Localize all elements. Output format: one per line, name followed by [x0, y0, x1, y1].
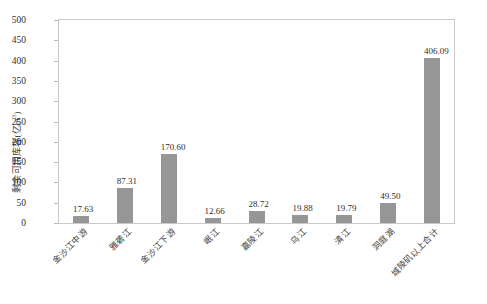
bar-value-label: 170.60	[161, 142, 186, 152]
bar[interactable]: 19.88	[292, 215, 308, 223]
bar[interactable]: 28.72	[249, 211, 265, 223]
bar-slot: 19.79	[322, 20, 366, 223]
y-axis-tick-label: 0	[0, 218, 26, 228]
bar-slot: 28.72	[235, 20, 279, 223]
y-axis-tick-label: 500	[0, 15, 26, 25]
bar[interactable]: 19.79	[336, 215, 352, 223]
bar-slot: 406.09	[410, 20, 454, 223]
y-axis-tick-label: 450	[0, 35, 26, 45]
bar-value-label: 12.66	[205, 206, 225, 216]
bar-slot: 87.31	[103, 20, 147, 223]
y-axis-title: 剩余可用库容(亿m3)	[10, 67, 23, 237]
y-axis-tick-label: 350	[0, 76, 26, 86]
bar[interactable]: 170.60	[161, 154, 177, 223]
bar-chart: 剩余可用库容(亿m3) 5004504003503002502001501005…	[0, 0, 487, 304]
bar[interactable]: 17.63	[73, 216, 89, 223]
bar-value-label: 87.31	[117, 176, 137, 186]
y-axis-tick-label: 200	[0, 137, 26, 147]
bar-value-label: 19.79	[336, 203, 356, 213]
bar[interactable]: 49.50	[380, 203, 396, 223]
bar[interactable]: 406.09	[424, 58, 440, 223]
bar-slot: 12.66	[191, 20, 235, 223]
bar-value-label: 17.63	[73, 204, 93, 214]
bar-value-label: 49.50	[380, 191, 400, 201]
y-axis-tick-label: 50	[0, 198, 26, 208]
y-axis-title-paren: )	[12, 111, 22, 114]
bar-value-label: 406.09	[424, 46, 449, 56]
bar[interactable]: 87.31	[117, 188, 133, 223]
bar-slot: 17.63	[59, 20, 103, 223]
bar-value-label: 19.88	[292, 203, 312, 213]
bar-slot: 170.60	[147, 20, 191, 223]
y-axis-tick-label: 300	[0, 96, 26, 106]
bar-value-label: 28.72	[249, 199, 269, 209]
bar-slot: 19.88	[278, 20, 322, 223]
bar-slot: 49.50	[366, 20, 410, 223]
y-axis-tick-label: 400	[0, 56, 26, 66]
y-axis-tick-label: 100	[0, 177, 26, 187]
y-axis-tick-label: 150	[0, 157, 26, 167]
x-axis-labels: 金沙江中游雅砻江金沙江下游岷江嘉陵江乌江清江洞庭湖城陵矶以上合计	[59, 225, 454, 303]
bar-series: 17.6387.31170.6012.6628.7219.8819.7949.5…	[59, 20, 454, 223]
bar[interactable]: 12.66	[205, 218, 221, 223]
y-axis-tick-label: 250	[0, 117, 26, 127]
